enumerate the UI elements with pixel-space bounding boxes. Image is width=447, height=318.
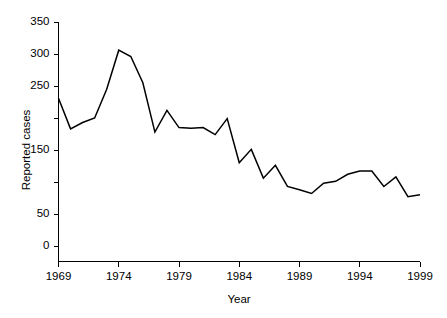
y-tick-label-50: 50	[37, 207, 50, 219]
x-axis-title: Year	[227, 293, 250, 305]
x-tick-label-1989: 1989	[287, 270, 313, 282]
chart-container: 050150250300350 196919741979198419891994…	[0, 0, 447, 318]
y-tick-label-150: 150	[30, 143, 49, 155]
x-tick-label-1969: 1969	[46, 270, 72, 282]
x-tick-label-1994: 1994	[347, 270, 373, 282]
y-tick-label-300: 300	[30, 47, 49, 59]
x-tick-label-1999: 1999	[407, 270, 433, 282]
y-tick-label-350: 350	[30, 15, 49, 27]
y-axis-title: Reported cases	[20, 109, 32, 190]
x-tick-label-1984: 1984	[226, 270, 252, 282]
x-tick-label-1979: 1979	[166, 270, 192, 282]
x-tick-label-1974: 1974	[106, 270, 132, 282]
y-tick-label-250: 250	[30, 79, 49, 91]
line-chart: 050150250300350 196919741979198419891994…	[0, 0, 447, 318]
y-tick-label-0: 0	[43, 239, 49, 251]
